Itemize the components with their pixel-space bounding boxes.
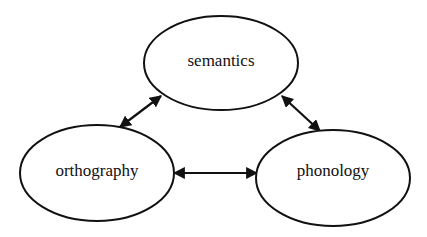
- node-orthography: orthography: [20, 125, 174, 221]
- node-phonology: phonology: [256, 130, 410, 226]
- semantics-label: semantics: [187, 51, 254, 70]
- node-semantics: semantics: [144, 16, 298, 110]
- orthography-label: orthography: [55, 161, 139, 180]
- phonology-label: phonology: [297, 161, 370, 180]
- diagram-canvas: semantics orthography phonology: [0, 0, 427, 237]
- edge-semantics-orthography: [120, 96, 161, 127]
- edge-semantics-phonology: [282, 96, 320, 131]
